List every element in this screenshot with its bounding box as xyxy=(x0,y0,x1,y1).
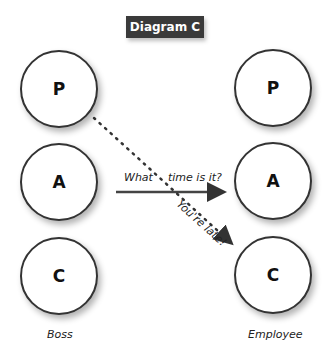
message-what-time: What xyxy=(124,171,154,184)
svg-text:time is it?: time is it? xyxy=(168,171,222,184)
employee-label: Employee xyxy=(248,328,302,341)
arrows-layer: What time is it? You're late! xyxy=(0,0,329,361)
message-youre-late: You're late! xyxy=(174,198,229,249)
boss-label: Boss xyxy=(47,328,73,341)
